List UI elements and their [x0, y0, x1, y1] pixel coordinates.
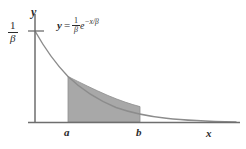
equation-annotation: y = 1 β e −x/β [57, 17, 99, 35]
equation-lhs: y [57, 20, 62, 31]
equation-equals-sign: = [64, 20, 70, 31]
fraction-numerator: 1 [8, 20, 18, 33]
equation-coefficient-fraction: 1 β [72, 17, 80, 35]
y-axis-tick-label: 1 β [8, 20, 18, 44]
exponential-distribution-figure: y x 1 β a b y = 1 β e −x/β [0, 0, 246, 149]
x-axis-title: x [206, 128, 212, 139]
equation-coefficient-denominator: β [72, 26, 80, 34]
fraction-denominator: β [8, 33, 18, 45]
equation-exponent: −x/β [85, 18, 99, 26]
x-axis-tick-label-a: a [64, 127, 70, 138]
x-axis-tick-label-b: b [136, 127, 142, 138]
y-axis-title: y [31, 6, 36, 18]
fraction-one-over-beta: 1 β [8, 20, 18, 44]
shaded-probability-region [68, 77, 140, 123]
